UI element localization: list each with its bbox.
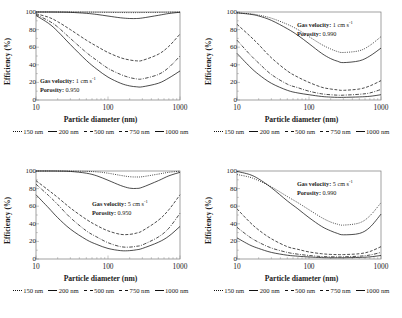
legend-line [214,290,223,291]
legend-swatch [13,288,22,292]
legend-item: 750 nm [320,127,350,135]
panel-annotation: Gas velocity: 5 cm s-1Porosity: 0.950 [92,199,148,218]
legend-swatch [155,288,164,292]
panel-top-right: 020406080100Efficiency (%)101001000Parti… [201,0,402,159]
plot-area: 020406080100Efficiency (%)101001000Parti… [0,0,201,159]
x-tick-label: 1000 [173,262,188,271]
legend-label: 1000 nm [165,287,188,294]
legend-label: 500 nm [94,287,114,294]
legend-item: 500 nm [84,286,114,294]
legend-swatch [155,129,164,133]
legend-item: 1000 nm [155,127,189,135]
legend-line [249,131,258,132]
x-tick-label: 100 [303,103,314,112]
legend-item: 200 nm [48,286,78,294]
legend-line [48,131,57,132]
legend-item: 150 nm [214,127,244,135]
legend-item: 1000 nm [356,127,390,135]
legend-item: 200 nm [48,127,78,135]
legend-swatch [119,129,128,133]
legend-line [285,290,294,291]
legend-swatch [119,288,128,292]
legend-label: 750 nm [130,128,150,135]
legend-item: 750 nm [320,286,350,294]
legend-line [214,131,223,132]
x-tick-labels: 101001000 [0,159,201,318]
panel-annotation: Gas velocity: 1 cm s-1Porosity: 0.950 [40,76,96,95]
legend-line [119,290,128,291]
x-tick-label: 10 [32,103,39,112]
x-axis-title: Particle diameter (nm) [0,274,201,283]
legend-line [155,290,164,291]
legend-label: 1000 nm [165,128,188,135]
legend-line [285,131,294,132]
panel-bottom-left: 020406080100Efficiency (%)101001000Parti… [0,159,201,318]
panel-annotation: Gas velocity: 1 cm s-1Porosity: 0.990 [297,20,353,39]
legend-swatch [214,129,223,133]
legend-label: 500 nm [94,128,114,135]
legend-label: 200 nm [260,128,280,135]
annotation-porosity: Porosity: 0.950 [92,209,148,218]
panel-top-left: 020406080100Efficiency (%)101001000Parti… [0,0,201,159]
legend-line [48,290,57,291]
legend: 150 nm200 nm500 nm750 nm1000 nm [201,127,402,135]
legend: 150 nm200 nm500 nm750 nm1000 nm [201,286,402,294]
legend-label: 150 nm [23,287,43,294]
annotation-gas-velocity: Gas velocity: 5 cm s-1 [297,179,353,189]
legend-swatch [13,129,22,133]
legend-line [84,131,93,132]
figure-efficiency-panels: 020406080100Efficiency (%)101001000Parti… [0,0,402,318]
x-axis-title: Particle diameter (nm) [201,274,402,283]
annotation-porosity: Porosity: 0.950 [40,86,96,95]
legend-line [356,131,365,132]
legend-item: 200 nm [249,286,279,294]
legend-line [320,131,329,132]
x-tick-label: 100 [102,262,113,271]
legend-item: 750 nm [119,127,149,135]
x-axis-title: Particle diameter (nm) [201,115,402,124]
legend-swatch [84,288,93,292]
plot-area: 020406080100Efficiency (%)101001000Parti… [201,0,402,159]
legend-line [84,290,93,291]
legend-swatch [48,288,57,292]
legend-label: 1000 nm [366,287,389,294]
legend-item: 750 nm [119,286,149,294]
legend-swatch [84,129,93,133]
legend-line [320,290,329,291]
x-tick-label: 100 [102,103,113,112]
annotation-porosity: Porosity: 0.990 [297,189,353,198]
legend-label: 150 nm [23,128,43,135]
x-tick-label: 100 [303,262,314,271]
legend-line [155,131,164,132]
legend-swatch [285,129,294,133]
legend-swatch [48,129,57,133]
legend-item: 150 nm [214,286,244,294]
legend-swatch [285,288,294,292]
legend-item: 1000 nm [356,286,390,294]
legend-label: 750 nm [130,287,150,294]
legend-item: 500 nm [285,127,315,135]
x-tick-labels: 101001000 [0,0,201,159]
legend-item: 1000 nm [155,286,189,294]
legend-swatch [214,288,223,292]
plot-area: 020406080100Efficiency (%)101001000Parti… [201,159,402,318]
annotation-porosity: Porosity: 0.990 [297,30,353,39]
legend-line [249,290,258,291]
legend-label: 200 nm [59,287,79,294]
legend-line [356,290,365,291]
legend-swatch [249,129,258,133]
legend-line [13,290,22,291]
panel-annotation: Gas velocity: 5 cm s-1Porosity: 0.990 [297,179,353,198]
legend-item: 150 nm [13,127,43,135]
legend-label: 500 nm [295,287,315,294]
legend-swatch [356,288,365,292]
legend-label: 150 nm [224,287,244,294]
x-tick-label: 1000 [374,262,389,271]
legend-label: 150 nm [224,128,244,135]
legend-swatch [249,288,258,292]
x-axis-title: Particle diameter (nm) [0,115,201,124]
x-tick-label: 1000 [173,103,188,112]
legend-item: 150 nm [13,286,43,294]
x-tick-label: 10 [32,262,39,271]
annotation-gas-velocity: Gas velocity: 1 cm s-1 [40,76,96,86]
